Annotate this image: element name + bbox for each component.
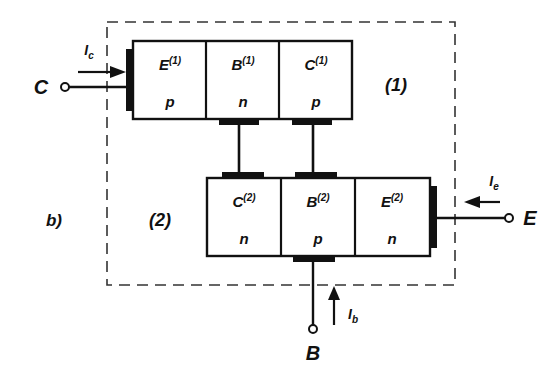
transistor-2-base-contact-bottom [293, 255, 335, 262]
transistor-1-collector-doping: p [311, 94, 320, 109]
transistor-1-base-contact [219, 118, 259, 125]
t2-emitter-superscript: (2) [391, 192, 403, 203]
t1-emitter-superscript: (1) [169, 55, 181, 66]
t1-collector-superscript: (1) [315, 55, 327, 66]
ib-subscript: b [352, 314, 358, 325]
emitter-terminal-label: E [523, 208, 536, 228]
transistor-1-emitter-symbol: E(1) [159, 56, 181, 72]
emitter-terminal-node[interactable] [505, 214, 513, 222]
transistor-1-collector-symbol: C(1) [304, 56, 327, 72]
emitter-current-arrow [464, 196, 500, 208]
collector-terminal-label: C [34, 77, 48, 97]
ic-subscript: c [88, 50, 94, 61]
t2-base-superscript: (2) [317, 192, 329, 203]
t1-base-letter: B [231, 56, 242, 73]
collector-current-label: Ic [84, 43, 93, 61]
transistor-2-base-symbol: B(2) [306, 193, 329, 209]
base-terminal-node[interactable] [309, 325, 317, 333]
transistor-1-emitter-contact [126, 49, 134, 111]
collector-terminal-node[interactable] [61, 83, 69, 91]
base-current-arrow [328, 286, 340, 325]
transistor-2-collector-doping: n [239, 231, 248, 246]
transistor-2-base-doping: p [313, 231, 322, 246]
transistor-2-collector-symbol: C(2) [232, 193, 255, 209]
region-1-label: (1) [385, 76, 407, 94]
collector-current-arrow [78, 66, 126, 78]
region-2-label: (2) [149, 211, 171, 229]
transistor-1-collector-contact [292, 118, 332, 125]
t1-collector-letter: C [304, 56, 315, 73]
t1-emitter-letter: E [159, 56, 169, 73]
t2-emitter-letter: E [381, 193, 391, 210]
transistor-1-base-doping: n [238, 94, 247, 109]
t2-base-letter: B [306, 193, 317, 210]
ie-subscript: e [493, 181, 499, 192]
t2-collector-letter: C [232, 193, 243, 210]
base-terminal-label: B [306, 343, 320, 363]
transistor-2-base-contact-top [295, 172, 337, 179]
transistor-2-emitter-symbol: E(2) [381, 193, 403, 209]
transistor-2-emitter-doping: n [387, 231, 396, 246]
transistor-1-base-symbol: B(1) [231, 56, 254, 72]
transistor-1-emitter-doping: p [165, 94, 174, 109]
emitter-current-label: Ie [489, 174, 498, 192]
base-current-label: Ib [348, 307, 358, 325]
panel-label: b) [46, 212, 62, 229]
transistor-2-collector-contact [222, 172, 264, 179]
t2-collector-superscript: (2) [243, 192, 255, 203]
figure-canvas: b) (1) (2) E(1) p B(1) n C(1) p C(2) n B… [0, 0, 557, 377]
transistor-2-emitter-contact [429, 186, 437, 248]
t1-base-superscript: (1) [242, 55, 254, 66]
